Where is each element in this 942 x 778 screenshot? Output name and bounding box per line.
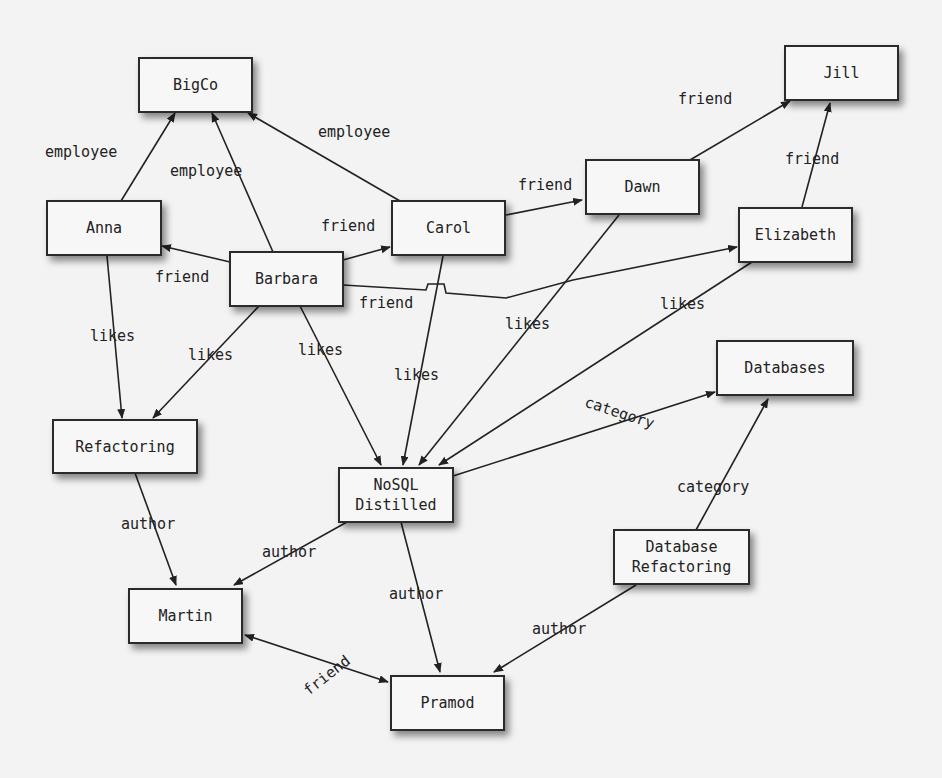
node-jill[interactable]: Jill [784, 45, 899, 101]
edge-elizabeth-nosql [439, 262, 752, 465]
node-carol[interactable]: Carol [391, 200, 506, 256]
edge-anna-bigco [121, 113, 175, 201]
node-barbara[interactable]: Barbara [229, 251, 344, 307]
node-bigco[interactable]: BigCo [138, 57, 253, 113]
edge-dawn-jill [690, 101, 790, 160]
label-carol-dawn: friend [518, 176, 572, 194]
label-barbara-anna: friend [155, 268, 209, 286]
edge-barbara-nosql [300, 306, 381, 465]
label-barbara-bigco: employee [170, 162, 242, 180]
node-refactoring[interactable]: Refactoring [52, 419, 198, 474]
label-nosql-martin: author [262, 543, 316, 561]
label-anna-refactoring: likes [90, 327, 135, 345]
label-dawn-jill: friend [678, 90, 732, 108]
label-barbara-elizabeth: friend [359, 294, 413, 312]
label-carol-nosql: likes [394, 366, 439, 384]
node-databases[interactable]: Databases [716, 340, 854, 396]
node-pramod[interactable]: Pramod [390, 675, 505, 731]
label-elizabeth-jill: friend [785, 150, 839, 168]
label-dbref-databases: category [677, 478, 749, 496]
node-elizabeth[interactable]: Elizabeth [738, 207, 853, 263]
edge-barbara-carol [343, 247, 390, 260]
node-martin[interactable]: Martin [128, 588, 243, 644]
label-dbref-pramod: author [532, 620, 586, 638]
node-database-refactoring[interactable]: Database Refactoring [613, 529, 750, 585]
label-anna-bigco: employee [45, 143, 117, 161]
label-carol-bigco: employee [318, 123, 390, 141]
node-nosql-distilled[interactable]: NoSQL Distilled [338, 467, 454, 523]
label-dawn-nosql: likes [505, 315, 550, 333]
edge-dbref-databases [696, 399, 768, 530]
label-barbara-nosql: likes [298, 341, 343, 359]
label-refactoring-martin: author [121, 515, 175, 533]
node-dawn[interactable]: Dawn [585, 159, 700, 215]
edge-barbara-bigco [212, 113, 273, 252]
label-barbara-refactoring: likes [188, 346, 233, 364]
edge-carol-dawn [506, 200, 582, 215]
edge-carol-nosql [403, 256, 443, 465]
label-elizabeth-nosql: likes [660, 295, 705, 313]
edge-barbara-anna [162, 246, 230, 262]
label-nosql-pramod: author [389, 585, 443, 603]
node-anna[interactable]: Anna [46, 200, 162, 256]
label-barbara-carol: friend [321, 217, 375, 235]
